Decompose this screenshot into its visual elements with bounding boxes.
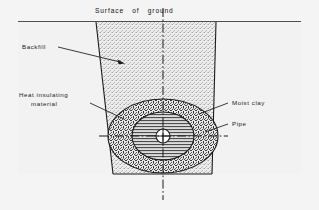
label-backfill: Backfill (22, 43, 46, 50)
label-heat-insulating-line1: Heat insulating (19, 91, 68, 98)
label-heat-insulating-line2: material (31, 100, 57, 107)
figure-container: Surface of ground Backfill Heat insulati… (0, 0, 319, 210)
title-surface-of-ground: Surface of ground (95, 7, 174, 15)
label-moist-clay: Moist clay (232, 99, 265, 106)
label-pipe: Pipe (232, 120, 247, 127)
cross-section-diagram: Surface of ground Backfill Heat insulati… (0, 0, 319, 210)
